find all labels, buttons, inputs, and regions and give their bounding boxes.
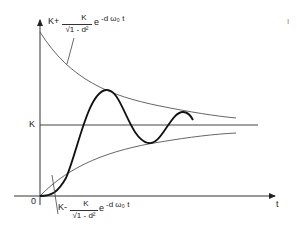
response-plot [0,0,297,233]
lower-formula-exponent: -d ω₀ t [106,200,129,209]
origin-label: 0 [31,196,36,206]
lower-envelope-curve [40,133,236,196]
page-marker: I [287,17,289,26]
lower-formula-numerator: K [76,199,96,208]
lower-formula-prefix: K- [58,202,67,212]
lower-formula-exp-base: e [99,203,104,213]
upper-formula-prefix: K+ [48,16,59,26]
upper-formula-exp-base: e [94,17,99,27]
lower-formula-denominator: √1 - d² [68,211,100,220]
upper-annotation-leader [67,38,74,64]
upper-formula-exponent: -d ω₀ t [101,14,124,23]
damped-response-curve [40,90,193,196]
upper-envelope-curve [40,32,236,118]
k-level-label: K [29,119,35,129]
upper-formula-numerator: K [74,13,94,22]
upper-formula-denominator: √1 - d² [61,25,93,34]
x-axis-label: t [276,199,279,209]
